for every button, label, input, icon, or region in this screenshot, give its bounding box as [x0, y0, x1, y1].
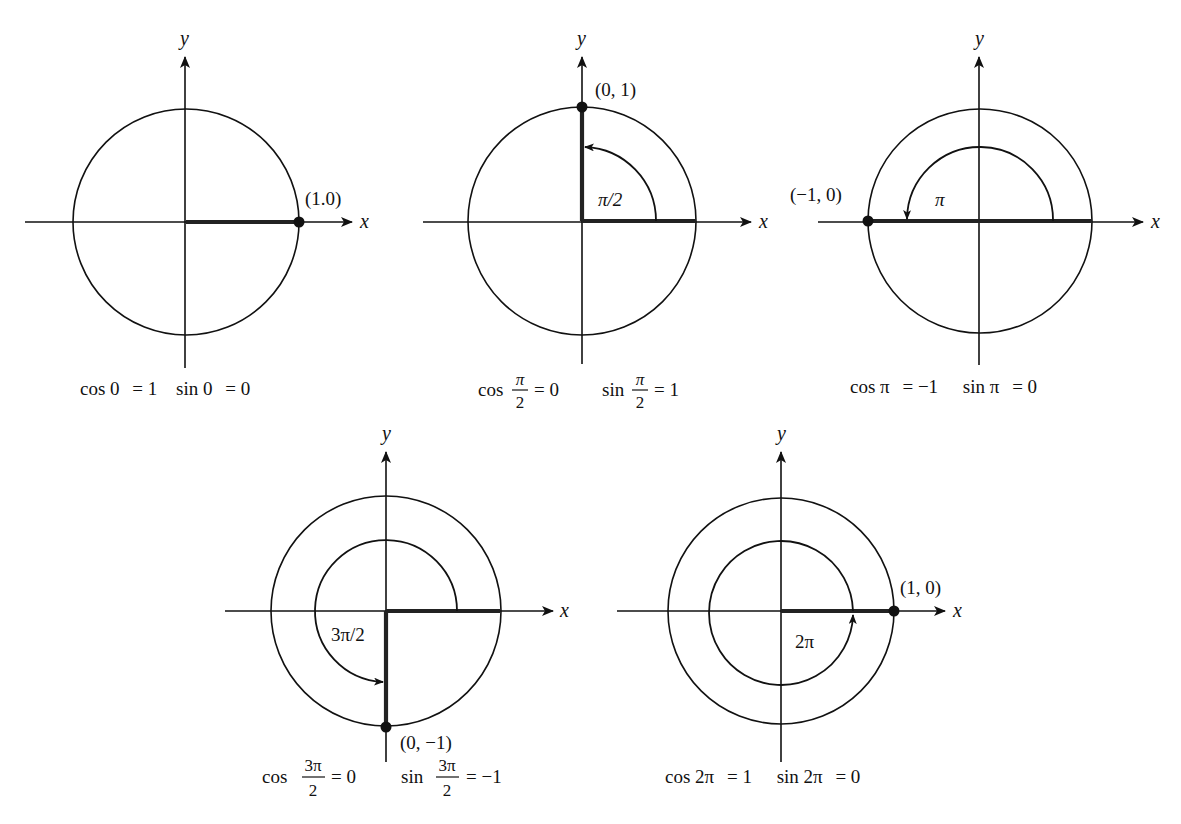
cos-lhs: cos 2π [665, 766, 715, 787]
angle-label: π/2 [598, 189, 623, 210]
cos-lhs: cos π [850, 376, 890, 397]
svg-text:sin: sin [401, 766, 424, 787]
y-axis-label: y [178, 27, 189, 50]
panel-angle-pi-over-2: x y (0, 1) π/2 cos π 2 = 0 sin π 2 = 1 [423, 27, 768, 412]
svg-text:3π: 3π [438, 756, 456, 775]
point-label: (0, −1) [400, 732, 452, 754]
svg-text:2: 2 [516, 393, 525, 412]
angle-label: 2π [795, 631, 815, 652]
svg-text:π: π [516, 370, 525, 389]
caption: cos 3π 2 = 0 sin 3π 2 = −1 [262, 756, 502, 800]
sin-rhs: = 0 [1012, 376, 1037, 397]
point-label: (0, 1) [595, 79, 636, 101]
cos-rhs: = −1 [902, 376, 938, 397]
svg-text:π: π [636, 370, 645, 389]
x-axis-label: x [359, 210, 369, 232]
panel-angle-2pi: x y (1, 0) 2π cos 2π = 1 sin 2π = 0 [617, 422, 962, 787]
svg-text:= 1: = 1 [654, 379, 679, 400]
cos-rhs: = 1 [727, 766, 752, 787]
panel-angle-0: x y (1.0) cos 0 = 1 sin 0 = 0 [25, 27, 369, 399]
caption: cos π 2 = 0 sin π 2 = 1 [478, 370, 679, 412]
svg-text:cos: cos [262, 766, 287, 787]
sin-lhs: sin π [963, 376, 1000, 397]
svg-text:2: 2 [309, 781, 318, 800]
point-label: (−1, 0) [790, 184, 842, 206]
panel-angle-3pi-over-2: x y (0, −1) 3π/2 cos 3π 2 = 0 sin 3π 2 =… [225, 422, 569, 800]
angle-arc-arrow [907, 147, 1053, 221]
svg-text:3π: 3π [304, 756, 322, 775]
svg-text:cos: cos [478, 379, 503, 400]
sin-rhs: = 0 [835, 766, 860, 787]
caption: cos 2π = 1 sin 2π = 0 [665, 766, 860, 787]
angle-label: 3π/2 [331, 624, 365, 645]
y-axis-label: y [973, 27, 984, 50]
point-marker [577, 102, 588, 113]
panel-angle-pi: x y (−1, 0) π cos π = −1 sin π = 0 [790, 27, 1160, 397]
x-axis-label: x [952, 599, 962, 621]
caption: cos π = −1 sin π = 0 [850, 376, 1037, 397]
x-axis-label: x [1150, 210, 1160, 232]
point-label: (1.0) [305, 188, 341, 210]
point-marker [294, 217, 305, 228]
x-axis-label: x [559, 599, 569, 621]
svg-text:= 0: = 0 [331, 766, 356, 787]
svg-text:sin: sin [602, 379, 625, 400]
sin-lhs: sin 2π [777, 766, 823, 787]
point-label: (1, 0) [900, 577, 941, 599]
point-marker [889, 606, 900, 617]
svg-text:2: 2 [443, 781, 452, 800]
svg-text:= 0: = 0 [534, 379, 559, 400]
sin-lhs: sin 0 [176, 378, 212, 399]
point-marker [381, 722, 392, 733]
unit-circle-figure: x y (1.0) cos 0 = 1 sin 0 = 0 x y (0, 1)… [0, 0, 1181, 824]
y-axis-label: y [775, 422, 786, 445]
caption: cos 0 = 1 sin 0 = 0 [80, 378, 250, 399]
cos-lhs: cos 0 [80, 378, 120, 399]
svg-text:= −1: = −1 [466, 766, 502, 787]
y-axis-label: y [575, 27, 586, 50]
x-axis-label: x [758, 210, 768, 232]
point-marker [863, 216, 874, 227]
cos-rhs: = 1 [132, 378, 157, 399]
y-axis-label: y [380, 422, 391, 445]
angle-label: π [935, 189, 945, 210]
sin-rhs: = 0 [225, 378, 250, 399]
svg-text:2: 2 [636, 393, 645, 412]
